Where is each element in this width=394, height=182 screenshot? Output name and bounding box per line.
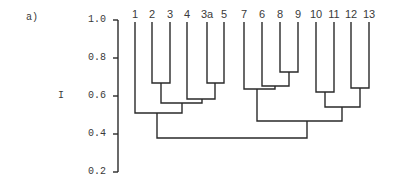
leaf-label: 1 [132, 8, 138, 20]
branch-7-689 [244, 22, 275, 89]
branch-4-3a5 [187, 22, 215, 99]
dendrogram: 1 2 3 4 3a 5 7 6 8 9 10 11 12 13 [0, 0, 394, 182]
leaf-label: 8 [277, 8, 283, 20]
branch-1-rest [135, 22, 182, 113]
branch-B-join [257, 89, 342, 121]
branch-8-9 [280, 22, 298, 72]
branch-3a-5 [207, 22, 224, 83]
branch-root [157, 113, 307, 138]
branch-1011-1213 [325, 88, 360, 107]
leaf-label: 10 [310, 8, 322, 20]
branch-12-13 [351, 22, 369, 88]
leaf-label: 2 [149, 8, 155, 20]
leaf-label: 9 [295, 8, 301, 20]
leaf-label: 12 [345, 8, 357, 20]
leaf-label: 13 [363, 8, 375, 20]
leaf-label: 11 [328, 8, 339, 20]
branch-10-11 [316, 22, 334, 92]
branch-23-4_3a5 [161, 83, 202, 103]
leaf-label: 5 [221, 8, 227, 20]
leaf-label: 7 [241, 8, 247, 20]
branch-2-3 [152, 22, 170, 83]
leaf-label: 6 [259, 8, 265, 20]
leaf-label: 3a [201, 8, 214, 20]
leaf-label: 4 [184, 8, 190, 20]
leaf-label: 3 [167, 8, 173, 20]
branch-6-89 [262, 22, 289, 86]
